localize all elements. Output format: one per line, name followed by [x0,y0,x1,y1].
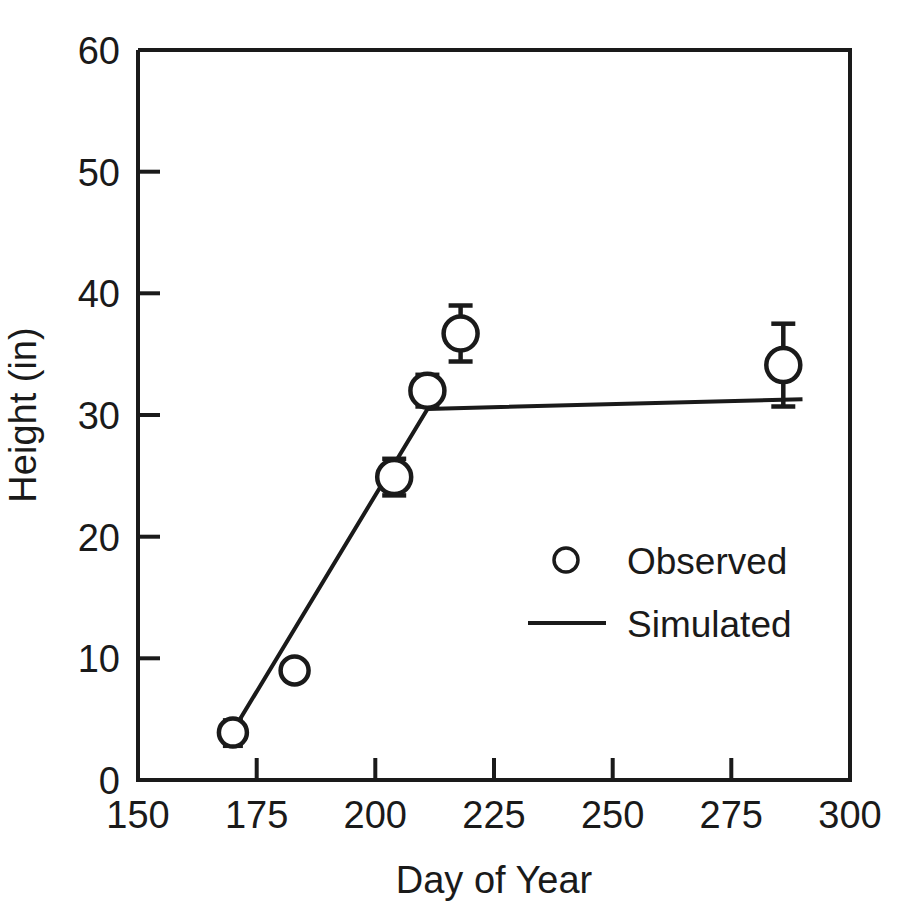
x-tick-labels: 150 175 200 225 250 275 300 [106,794,881,836]
legend-label-observed: Observed [627,541,787,582]
data-point-3 [377,459,411,496]
marker-observed-6 [766,348,800,382]
legend-entry-observed: Observed [554,541,787,582]
y-tick-label-40: 40 [78,273,120,315]
y-tick-label-10: 10 [78,638,120,680]
series-observed [219,306,800,747]
marker-observed-5 [444,317,478,351]
y-tick-label-30: 30 [78,395,120,437]
data-point-6 [766,324,800,407]
marker-observed-1 [219,719,247,747]
marker-observed-2 [281,657,309,685]
axis-frame [138,50,850,780]
x-tick-label-200: 200 [344,794,407,836]
legend-entry-simulated: Simulated [528,604,792,645]
data-point-2 [281,657,309,685]
plot-border [138,50,850,780]
x-axis-title: Day of Year [396,859,593,901]
y-tick-label-60: 60 [78,30,120,72]
legend-label-simulated: Simulated [627,604,792,645]
chart-figure: 0 10 20 30 40 50 60 150 175 200 225 250 … [0,0,904,923]
x-tick-label-225: 225 [462,794,525,836]
legend: Observed Simulated [528,541,792,645]
y-axis-title: Height (in) [2,327,44,502]
x-tick-label-275: 275 [700,794,763,836]
marker-observed-4 [410,374,444,408]
data-point-1 [219,719,247,747]
x-axis-ticks [138,758,850,780]
data-point-4 [410,374,444,408]
x-tick-label-150: 150 [106,794,169,836]
marker-observed-3 [377,460,411,494]
open-circle-icon [554,548,578,572]
data-point-5 [444,306,478,362]
y-tick-labels: 0 10 20 30 40 50 60 [78,30,120,802]
x-tick-label-175: 175 [225,794,288,836]
y-tick-label-50: 50 [78,152,120,194]
x-tick-label-300: 300 [818,794,881,836]
x-tick-label-250: 250 [581,794,644,836]
y-axis-ticks [138,50,160,780]
y-tick-label-20: 20 [78,517,120,559]
plot-canvas: 0 10 20 30 40 50 60 150 175 200 225 250 … [0,0,904,923]
